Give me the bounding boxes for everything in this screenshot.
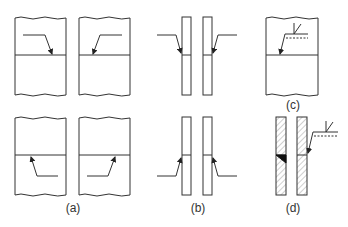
panel-b-bottom bbox=[157, 117, 237, 195]
fillet-weld-symbol bbox=[326, 121, 333, 132]
label-a: (a) bbox=[66, 201, 81, 215]
panel-a-top-left bbox=[15, 17, 66, 96]
label-d: (d) bbox=[286, 201, 301, 215]
panel-d bbox=[276, 117, 338, 195]
panel-c bbox=[266, 17, 318, 96]
panel-a-top-right bbox=[79, 17, 130, 96]
fillet-weld-symbol bbox=[294, 23, 301, 34]
panel-b-top bbox=[157, 17, 237, 95]
label-c: (c) bbox=[286, 98, 300, 112]
label-b: (b) bbox=[191, 201, 206, 215]
panel-a-bottom-left bbox=[15, 117, 66, 196]
panel-a-bottom-right bbox=[79, 117, 130, 196]
weld-symbol-diagram bbox=[0, 0, 348, 227]
